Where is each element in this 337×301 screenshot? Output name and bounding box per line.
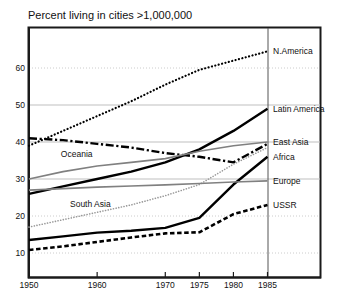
y-tick-label-30: 30 (16, 174, 26, 184)
series-labels-group: N.AmericaLatin AmericaOceaniaEast AsiaAf… (61, 46, 325, 210)
x-tick-label-1950: 1950 (20, 280, 39, 290)
x-axis-ticks (29, 272, 268, 277)
series-label-n-america: N.America (273, 46, 313, 56)
series-label-south-asia: South Asia (70, 199, 111, 209)
y-tick-label-10: 10 (16, 248, 26, 258)
x-tick-label-1980: 1980 (224, 280, 243, 290)
x-axis-tick-labels: 195019601970197519801985 (20, 280, 278, 290)
y-tick-label-20: 20 (16, 211, 26, 221)
series-label-latin-america: Latin America (273, 104, 325, 114)
series-label-east-asia: East Asia (273, 137, 309, 147)
series-label-oceania: Oceania (61, 149, 93, 159)
series-label-europe: Europe (273, 176, 301, 186)
series-line-ussr (29, 205, 268, 250)
x-tick-label-1960: 1960 (88, 280, 107, 290)
y-tick-label-40: 40 (16, 137, 26, 147)
series-label-ussr: USSR (273, 200, 297, 210)
x-tick-label-1970: 1970 (156, 280, 175, 290)
line-chart-plot: 195019601970197519801985 102030405060 N.… (0, 0, 337, 301)
chart-figure: Percent living in cities >1,000,000 1950… (0, 0, 337, 301)
y-tick-label-50: 50 (16, 100, 26, 110)
series-line-east-asia (29, 142, 268, 179)
y-axis-tick-labels: 102030405060 (16, 63, 26, 258)
x-tick-label-1975: 1975 (190, 280, 209, 290)
x-tick-label-1985: 1985 (258, 280, 277, 290)
y-tick-label-60: 60 (16, 63, 26, 73)
series-line-africa (29, 157, 268, 240)
series-label-africa: Africa (273, 152, 295, 162)
